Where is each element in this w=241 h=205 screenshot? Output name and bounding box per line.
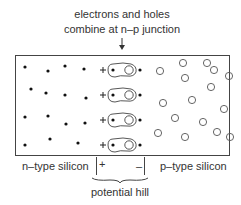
- hole-icon: [220, 105, 227, 112]
- electron-icon: [46, 69, 49, 72]
- hill-minus-sign: –: [136, 160, 143, 172]
- electron-icon: [84, 96, 87, 99]
- negative-ion-icon: [138, 93, 141, 96]
- hole-icon: [210, 66, 217, 73]
- recombination-pair: [100, 88, 142, 102]
- potential-hill-label: potential hill: [91, 186, 149, 198]
- electron-icon: [23, 65, 26, 68]
- negative-ion-icon: [138, 68, 141, 71]
- recombination-pair: [100, 113, 142, 127]
- hole-icon: [159, 99, 166, 106]
- hole-icon: [125, 91, 133, 99]
- electron-icon: [63, 64, 66, 67]
- electron-icon: [82, 67, 85, 70]
- electron-icon: [111, 143, 114, 146]
- electrons-n-side: [23, 64, 87, 146]
- caption-line-2: combine at n–p junction: [64, 23, 180, 35]
- electron-icon: [23, 143, 26, 146]
- hole-icon: [213, 128, 220, 135]
- hole-icon: [125, 141, 133, 149]
- hole-icon: [171, 114, 178, 121]
- electron-icon: [64, 122, 67, 125]
- hole-icon: [181, 74, 188, 81]
- hole-icon: [207, 83, 214, 90]
- recombination-pair: [100, 63, 142, 77]
- electron-icon: [111, 68, 114, 71]
- caption-line-1: electrons and holes: [74, 8, 170, 20]
- hole-icon: [179, 59, 186, 66]
- hole-icon: [203, 59, 210, 66]
- pn-junction-diagram: electrons and holes combine at n–p junct…: [0, 0, 241, 205]
- recombination-pair: [100, 138, 142, 152]
- electron-icon: [111, 118, 114, 121]
- electron-icon: [29, 87, 32, 90]
- n-type-label: n–type silicon: [22, 160, 89, 172]
- hole-icon: [199, 118, 206, 125]
- electron-icon: [111, 93, 114, 96]
- down-arrow-icon: [119, 38, 125, 50]
- hole-icon: [125, 116, 133, 124]
- electron-icon: [23, 115, 26, 118]
- negative-ion-icon: [138, 143, 141, 146]
- electron-icon: [46, 114, 49, 117]
- holes-p-side: [154, 59, 233, 140]
- hill-plus-sign: +: [99, 158, 105, 170]
- hole-icon: [156, 67, 163, 74]
- hole-icon: [154, 129, 161, 136]
- electron-icon: [44, 91, 47, 94]
- hole-icon: [181, 133, 188, 140]
- electron-icon: [83, 121, 86, 124]
- junction-recombination-pairs: [100, 63, 142, 152]
- electron-icon: [48, 137, 51, 140]
- hole-icon: [188, 96, 195, 103]
- electron-icon: [63, 93, 66, 96]
- p-type-label: p–type silicon: [160, 160, 227, 172]
- hole-icon: [125, 66, 133, 74]
- negative-ion-icon: [138, 118, 141, 121]
- electron-icon: [76, 141, 79, 144]
